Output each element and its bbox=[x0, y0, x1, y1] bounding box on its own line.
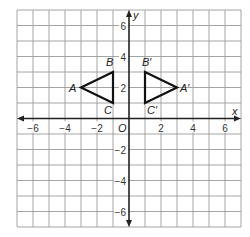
x-tick-label: −4 bbox=[59, 123, 71, 134]
x-axis-arrow-left-icon bbox=[17, 116, 24, 122]
y-tick-label: −6 bbox=[115, 207, 127, 218]
vertex-label: B′ bbox=[142, 56, 152, 68]
y-tick-label: 2 bbox=[120, 83, 126, 94]
y-axis-label: y bbox=[132, 9, 140, 21]
y-tick-label: −2 bbox=[115, 145, 127, 156]
y-axis-arrow-down-icon bbox=[126, 220, 132, 227]
x-tick-label: −6 bbox=[27, 123, 39, 134]
x-tick-label: 6 bbox=[222, 123, 228, 134]
y-axis-arrow-up-icon bbox=[126, 10, 132, 17]
vertex-label: C bbox=[104, 104, 112, 116]
vertex-label: B bbox=[106, 56, 113, 68]
tick-labels: xyO−6−4−2246642−2−4−6 bbox=[26, 9, 239, 218]
x-tick-label: −2 bbox=[91, 123, 103, 134]
vertex-label: A′ bbox=[179, 82, 190, 94]
x-axis-label: x bbox=[231, 105, 238, 117]
origin-label: O bbox=[118, 122, 127, 134]
axes bbox=[17, 10, 241, 227]
y-tick-label: −4 bbox=[115, 176, 127, 187]
vertex-label: A bbox=[68, 82, 76, 94]
y-tick-label: 4 bbox=[120, 52, 126, 63]
coordinate-plane: xyO−6−4−2246642−2−4−6 ABCA′B′C′ bbox=[0, 0, 250, 237]
vertex-label: C′ bbox=[147, 104, 158, 116]
x-tick-label: 4 bbox=[190, 123, 196, 134]
y-tick-label: 6 bbox=[120, 21, 126, 32]
x-tick-label: 2 bbox=[158, 123, 164, 134]
